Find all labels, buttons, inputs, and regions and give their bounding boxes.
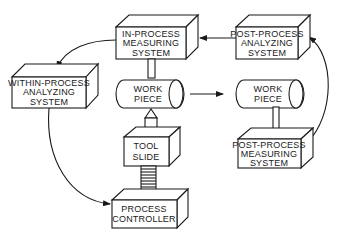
process-controller-line2: CONTROLLER [112,214,176,224]
process-diagram: IN-PROCESS MEASURING SYSTEM POST-PROCESS… [0,0,341,241]
work-piece-right-line1: WORK [254,84,283,94]
within-process-analyzing-box: WITHIN-PROCESS ANALYZING SYSTEM [8,64,98,108]
process-controller-line1: PROCESS [121,204,166,214]
arrow-within-process-to-controller [49,108,110,204]
in-process-measuring-line2: MEASURING [123,38,179,48]
work-piece-right: WORK PIECE [236,80,304,108]
post-process-probe [273,107,279,129]
process-controller-box: PROCESS CONTROLLER [112,189,188,228]
work-piece-left-line1: WORK [134,84,163,94]
post-process-measuring-box: POST-PROCESS MEASURING SYSTEM [232,128,313,168]
tool-slide-line1: TOOL [133,141,158,151]
lead-screw [141,166,156,190]
tool-slide-box: TOOL SLIDE [124,127,180,166]
tool-slide-line2: SLIDE [132,152,159,162]
post-process-analyzing-line3: SYSTEM [248,48,286,58]
post-process-measuring-line3: SYSTEM [250,158,288,168]
work-piece-left-line2: PIECE [134,94,162,104]
work-piece-right-line2: PIECE [254,94,282,104]
work-piece-left: WORK PIECE [116,80,184,108]
within-process-analyzing-line2: ANALYZING [23,87,75,97]
arrow-post-measuring-to-post-analyzing [307,37,328,143]
in-process-measuring-box: IN-PROCESS MEASURING SYSTEM [116,15,198,59]
post-process-analyzing-box: POST-PROCESS ANALYZING SYSTEM [230,15,310,59]
post-process-analyzing-line2: ANALYZING [241,38,293,48]
in-process-measuring-line3: SYSTEM [132,48,170,58]
in-process-probe [148,59,155,78]
within-process-analyzing-line3: SYSTEM [30,97,68,107]
